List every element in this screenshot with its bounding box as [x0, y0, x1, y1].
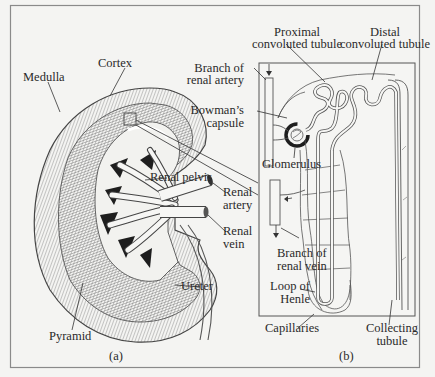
label-bowmans-2: capsule — [184, 117, 244, 130]
label-renal-vein-2: vein — [223, 238, 245, 251]
label-loop-2: Henle — [254, 293, 310, 306]
label-distal-2: convoluted tubule — [330, 38, 435, 51]
label-collecting-2: tubule — [355, 335, 429, 348]
label-branch-artery-2: renal artery — [174, 74, 244, 87]
label-glomerulus: Glomerulus — [262, 158, 321, 171]
label-capillaries: Capillaries — [265, 322, 319, 335]
label-renal-artery-2: artery — [223, 199, 252, 212]
label-cortex: Cortex — [98, 57, 132, 70]
label-pyramid: Pyramid — [49, 330, 91, 343]
label-renal-pelvis: Renal pelvis — [150, 171, 212, 184]
label-medulla: Medulla — [23, 71, 65, 84]
label-ureter: Ureter — [181, 280, 213, 293]
caption-b: (b) — [339, 350, 354, 363]
label-branch-vein-2: renal vein — [277, 260, 327, 273]
caption-a: (a) — [109, 350, 123, 363]
